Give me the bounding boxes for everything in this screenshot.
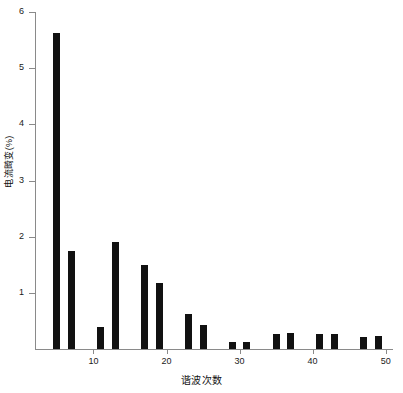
y-axis-tick: [29, 293, 35, 294]
bar: [185, 314, 192, 349]
x-axis-tick: [167, 350, 168, 354]
bar: [141, 265, 148, 349]
x-axis-tick: [93, 350, 94, 354]
x-axis-tick-label: 10: [81, 356, 105, 366]
bar: [273, 334, 280, 349]
harmonic-spectrum-chart: 123456 1020304050 电流畸变(%) 谐波次数: [0, 0, 403, 393]
x-axis-tick-label: 30: [228, 356, 252, 366]
y-axis-tick: [29, 68, 35, 69]
y-axis-tick: [29, 181, 35, 182]
bar: [331, 334, 338, 349]
x-axis-tick: [240, 350, 241, 354]
y-axis-tick: [29, 237, 35, 238]
bar: [243, 342, 250, 349]
bar: [360, 337, 367, 349]
x-axis-tick-label: 20: [155, 356, 179, 366]
y-axis-tick: [29, 12, 35, 13]
y-axis-tick-label: 1: [0, 288, 24, 297]
bar: [200, 325, 207, 349]
bar: [375, 336, 382, 349]
plot-area: [36, 12, 393, 350]
y-axis-tick: [29, 124, 35, 125]
bar: [53, 33, 60, 349]
bar: [316, 334, 323, 349]
y-axis-tick-label: 6: [0, 7, 24, 16]
bar: [112, 242, 119, 349]
y-axis-tick-label: 2: [0, 232, 24, 241]
y-axis-tick-label: 5: [0, 63, 24, 72]
x-axis-tick-label: 40: [301, 356, 325, 366]
x-axis-tick: [313, 350, 314, 354]
y-axis-title: 电流畸变(%): [2, 117, 15, 207]
x-axis-tick: [386, 350, 387, 354]
bar: [156, 283, 163, 349]
bar: [229, 342, 236, 349]
bar: [287, 333, 294, 349]
bar: [68, 251, 75, 349]
x-axis-tick-label: 50: [374, 356, 398, 366]
y-axis-line: [35, 12, 36, 350]
x-axis-title: 谐波次数: [0, 372, 403, 387]
bar: [97, 327, 104, 349]
x-axis-line: [35, 349, 393, 350]
